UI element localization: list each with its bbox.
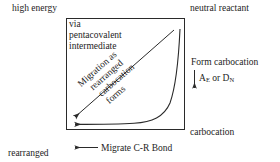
mechanism-middle: or D [210,73,230,83]
note-line-2: pentacovalent [69,30,122,41]
note-line-1: via [69,19,122,30]
mechanism-subscript-n: N [229,76,234,83]
energy-diagram-figure: high energy neutral reactant rearranged … [0,0,280,162]
label-rearranged-line-1: rearranged [8,148,52,159]
label-rearranged-carbocation-product: rearranged carbocation product [8,126,52,162]
label-mechanism-ae-or-dn: AE or DN [199,73,234,83]
label-migrate-c-r-bond: Migrate C-R Bond [101,143,172,153]
label-high-energy: high energy [12,3,57,14]
note-pentacovalent-intermediate: via pentacovalent intermediate [69,19,122,52]
label-neutral-reactant: neutral reactant [190,3,249,14]
label-form-carbocation: Form carbocation [191,57,258,67]
label-carbocation: carbocation [190,127,234,138]
note-line-3: intermediate [69,41,122,52]
mechanism-prefix: A [199,73,206,83]
